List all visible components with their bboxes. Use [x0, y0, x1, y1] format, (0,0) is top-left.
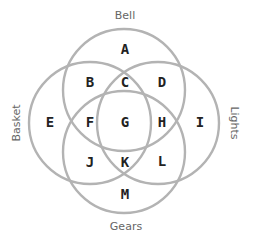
- region-f: F: [86, 114, 94, 130]
- region-i: I: [196, 114, 204, 130]
- region-b: B: [86, 74, 94, 90]
- set-label-bell: Bell: [115, 9, 135, 22]
- venn-diagram: Bell Basket Lights Gears A B C D E F G H…: [0, 0, 254, 243]
- set-label-basket: Basket: [10, 104, 23, 142]
- region-m: M: [121, 186, 129, 202]
- region-h: H: [158, 114, 166, 130]
- region-d: D: [158, 74, 166, 90]
- region-l: L: [158, 153, 166, 169]
- set-label-lights: Lights: [228, 106, 241, 139]
- region-g: G: [121, 114, 129, 130]
- region-k: K: [121, 154, 130, 170]
- region-a: A: [121, 41, 130, 57]
- region-e: E: [46, 114, 54, 130]
- region-j: J: [86, 154, 94, 170]
- set-label-gears: Gears: [110, 220, 143, 233]
- region-c: C: [121, 74, 129, 90]
